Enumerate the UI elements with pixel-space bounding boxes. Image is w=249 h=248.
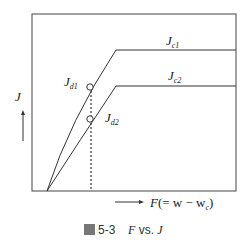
label-jd2: Jd2 (105, 110, 119, 127)
x-axis-label: F(= w − wc) (149, 195, 213, 212)
caption-figure-icon (84, 224, 95, 235)
figure-diagram: Jc1 Jc2 Jd1 Jd2 J F(= w − wc) 圖 5-3 F vs… (0, 0, 249, 248)
label-jc2: Jc2 (168, 68, 181, 85)
caption-title: F vs. J (127, 223, 163, 237)
label-jc1: Jc1 (166, 33, 179, 50)
point-jd2-marker (87, 116, 93, 122)
point-jd1-marker (87, 84, 93, 90)
caption-number: 5-3 (98, 223, 116, 237)
y-axis-arrow-icon (21, 110, 25, 115)
curve-jc2 (47, 86, 236, 191)
label-jd1: Jd1 (64, 74, 78, 91)
plot-frame (32, 14, 236, 191)
y-axis-label: J (15, 89, 22, 104)
curve-jc1 (47, 50, 236, 191)
x-axis-arrow-icon (139, 200, 144, 204)
